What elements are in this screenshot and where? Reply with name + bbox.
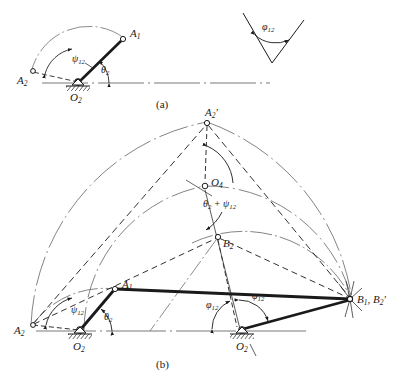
arc-a1-a2 [31,26,124,73]
label-b1-b2prime: B1, B2′ [357,294,386,305]
arc-b2-right [192,231,352,300]
angle-arc-psi12-a [45,49,72,74]
joint-b1b2prime [347,296,352,301]
label-phi12-left: φ12 [206,300,218,310]
joint-a2-a [31,69,36,74]
joint-a2prime [204,120,209,125]
chord-a2-a2prime [33,125,206,324]
label-a2-a: A2 [17,75,27,86]
label-psi12-b: ψ12 [71,305,84,315]
label-theta2-a: θ2 [101,65,109,75]
joint-o2prime [202,183,208,189]
caption-part-a: (a) [156,99,168,110]
label-a2-b: A2 [14,325,24,336]
link-o2-a2-a [33,72,78,82]
label-a1-b: A1 [122,279,132,290]
joint-b2 [215,234,220,239]
label-o4: O2 [236,341,248,352]
angle-arc-psi12-b [46,298,72,325]
part-b-group [31,120,362,356]
link-a2-o2-b [33,325,79,330]
label-phi12-detail: φ12 [262,22,274,32]
joint-a2-b [31,323,36,328]
vertical-a2prime-o2prime [205,126,207,182]
arc-a2-to-a2prime [31,122,207,325]
leader-o4-label [250,344,256,356]
tick-ray-o2prime [186,180,212,196]
rocker-o4-b1 [243,300,350,329]
ground-pivot-symbol-o4 [230,327,254,339]
joint-a1-a [120,36,125,41]
angle-arc-phi12-right [239,300,268,321]
chord-b2-b1b2prime [219,238,351,299]
ground-pivot-symbol-o2-a [66,79,90,91]
link-o2-a1-a [79,40,122,82]
chord-a2prime-b1b2prime [208,125,351,299]
label-a2prime: A2′ [205,107,218,118]
label-a1-a: A1 [130,28,140,39]
label-phi12-right: φ12 [252,291,264,301]
label-psi12-a: ψ12 [72,54,85,64]
label-o2prime: O4 [211,177,223,188]
label-o2-a: O2 [70,92,82,103]
arc-mid-o2prime [84,186,205,331]
ground-pivot-symbol-o2-b [68,327,92,339]
linkage-figure [0,0,400,392]
caption-part-b: (b) [156,359,169,370]
label-theta2-psi12: θ2 + ψ12 [203,199,236,209]
label-b2: B2 [223,238,233,249]
leader-psi12-a [85,63,93,68]
label-theta2-b: θ2 [104,312,112,322]
coupler-a1-b1 [116,289,350,299]
label-o2-b: O2 [73,341,85,352]
joint-a1-b [112,286,117,291]
